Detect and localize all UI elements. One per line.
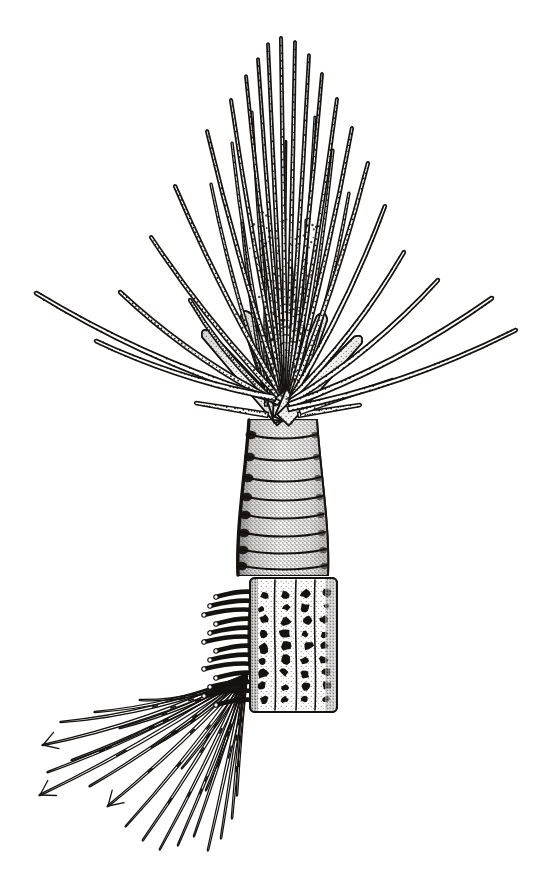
chaeta-fork-tine <box>40 795 57 796</box>
hook-tip <box>208 631 212 635</box>
ring-right-knob <box>316 494 323 500</box>
hook-tip <box>214 649 218 653</box>
hook-tip <box>208 658 212 662</box>
ring-right-knob <box>320 547 327 553</box>
hook-tip <box>202 667 206 671</box>
plate-inner <box>250 578 337 712</box>
hook-tip <box>208 685 212 689</box>
hook-tip <box>214 622 218 626</box>
polychaete-line-drawing <box>0 0 549 875</box>
ring-right-knob <box>318 530 325 536</box>
hook-tip <box>202 694 206 698</box>
hook-tip <box>208 604 212 608</box>
abdominal-plate-group <box>250 578 337 712</box>
hook-tip <box>214 676 218 680</box>
hook-tip <box>202 640 206 644</box>
ring-right-knob <box>321 563 328 569</box>
figure-root <box>0 0 549 875</box>
hook-tip <box>214 595 218 599</box>
hook-tip <box>202 613 206 617</box>
ring-right-knob <box>317 512 324 518</box>
ring-right-knob <box>314 475 321 481</box>
hook-tip <box>214 703 218 707</box>
thorax-segments-group <box>236 420 328 575</box>
